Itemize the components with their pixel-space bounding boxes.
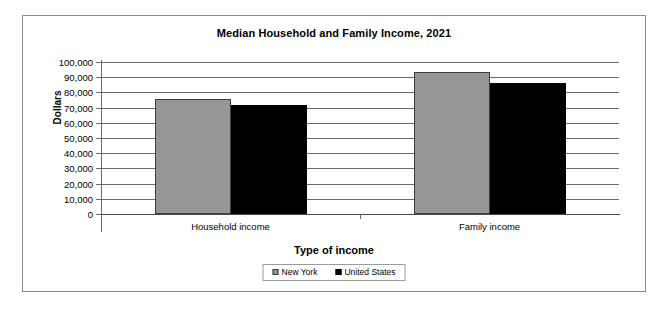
y-axis-tick — [96, 214, 101, 215]
bar-united-states-family-income — [490, 83, 566, 214]
y-axis-tick — [96, 92, 101, 93]
y-axis-tick-label: 60,000 — [25, 117, 93, 128]
bar-new-york-household-income — [155, 99, 231, 214]
legend-entry[interactable]: New York — [273, 267, 318, 277]
x-axis-tick — [360, 215, 361, 219]
y-axis-tick — [96, 184, 101, 185]
gridline — [101, 62, 619, 63]
y-axis-tick — [96, 138, 101, 139]
y-axis-tick-label: 40,000 — [25, 148, 93, 159]
bar-new-york-family-income — [414, 72, 490, 214]
y-axis-tick — [96, 62, 101, 63]
y-axis-tick-label: 0 — [25, 209, 93, 220]
chart-title: Median Household and Family Income, 2021 — [23, 27, 645, 39]
y-axis-tick-label: 90,000 — [25, 72, 93, 83]
gridline — [101, 77, 619, 78]
y-axis-tick — [96, 199, 101, 200]
plot-area — [101, 62, 619, 214]
legend-entry[interactable]: United States — [335, 267, 395, 277]
y-axis-tick-label: 10,000 — [25, 193, 93, 204]
chart-legend: New YorkUnited States — [263, 264, 406, 281]
y-axis-tick-label: 100,000 — [25, 57, 93, 68]
chart-frame: Median Household and Family Income, 2021… — [22, 15, 646, 292]
gray-square-icon — [273, 269, 279, 275]
x-axis-category-label: Household income — [151, 221, 311, 232]
y-axis-tick — [96, 153, 101, 154]
legend-label: United States — [344, 267, 395, 277]
y-axis-tick-label: 50,000 — [25, 133, 93, 144]
x-axis-category-label: Family income — [410, 221, 570, 232]
y-axis-tick — [96, 108, 101, 109]
black-square-icon — [335, 269, 341, 275]
y-axis-tick-label: 20,000 — [25, 178, 93, 189]
y-axis-tick-label: 30,000 — [25, 163, 93, 174]
y-axis-tick — [96, 123, 101, 124]
x-axis-title: Type of income — [23, 244, 645, 256]
y-axis-tick-label: 80,000 — [25, 87, 93, 98]
bar-united-states-household-income — [231, 105, 307, 214]
y-axis-tick-label: 70,000 — [25, 102, 93, 113]
y-axis-tick — [96, 168, 101, 169]
y-axis-tick — [96, 77, 101, 78]
legend-label: New York — [282, 267, 318, 277]
